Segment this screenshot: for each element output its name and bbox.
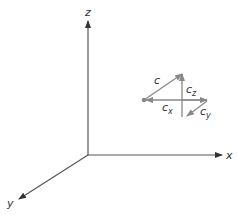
vector-c-label: c <box>154 74 160 87</box>
y-axis <box>19 155 88 199</box>
vector-components-diagram: z x y c cz cx cy <box>0 0 238 217</box>
vector-cx-label: cx <box>162 101 173 116</box>
vector-c <box>144 74 182 100</box>
x-axis-label: x <box>225 149 233 162</box>
vector-cz-label: cz <box>186 83 197 98</box>
vector-cy-label: cy <box>200 105 211 120</box>
z-axis-label: z <box>84 6 91 19</box>
y-axis-label: y <box>6 197 14 210</box>
